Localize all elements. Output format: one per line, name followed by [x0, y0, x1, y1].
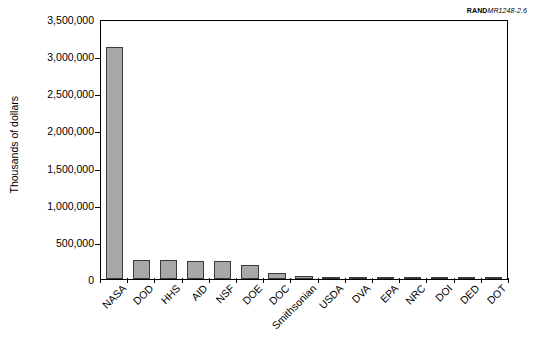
bar-cell [426, 21, 453, 279]
bar[interactable] [106, 47, 123, 279]
x-axis-tick-label: DVA [364, 282, 372, 290]
x-axis-tick-label: AID [201, 282, 209, 290]
bar-cell [290, 21, 317, 279]
bar-cell [155, 21, 182, 279]
x-axis-tick-label: DED [473, 282, 481, 290]
y-axis-tick-label: 3,500,000 [47, 14, 94, 26]
y-axis-tick-mark [95, 207, 101, 208]
bar-cell [263, 21, 290, 279]
x-axis-tick-label: DOE [256, 282, 264, 290]
y-axis-tick-label: 0 [88, 274, 94, 286]
bar-cell [399, 21, 426, 279]
y-axis-tick-label: 500,000 [56, 237, 94, 249]
bar-cell [182, 21, 209, 279]
bar[interactable] [241, 265, 258, 279]
x-axis-tick-labels: NASADODHHSAIDNSFDOEDOCSmithsonianUSDADVA… [100, 282, 508, 350]
y-axis-tick-mark [95, 132, 101, 133]
x-axis-tick-label: USDA [337, 282, 345, 290]
y-axis-tick-label: 2,000,000 [47, 125, 94, 137]
bar[interactable] [160, 260, 177, 279]
rand-report-number: MR1248-2.6 [487, 7, 527, 14]
y-axis-tick-mark [95, 170, 101, 171]
y-axis-tick-label: 2,500,000 [47, 88, 94, 100]
x-axis-tick-label: DOC [283, 282, 291, 290]
rand-brand-label: RAND [467, 7, 488, 14]
bar-cell [128, 21, 155, 279]
bar-cell [453, 21, 480, 279]
y-axis-tick-label: 3,000,000 [47, 51, 94, 63]
bar-cell [101, 21, 128, 279]
x-axis-tick-label: NSF [228, 282, 236, 290]
figure-identifier: RANDMR1248-2.6 [467, 7, 527, 14]
y-axis-tick-mark [95, 244, 101, 245]
bar-cell [345, 21, 372, 279]
bar-cell [236, 21, 263, 279]
x-axis-tick-label: DOT [500, 282, 508, 290]
plot-area [100, 20, 508, 280]
bar[interactable] [187, 261, 204, 279]
bar[interactable] [214, 261, 231, 279]
x-axis-tick-label: Smithsonian [310, 282, 318, 290]
x-axis-tick-label: NASA [120, 282, 128, 290]
bar[interactable] [133, 260, 150, 279]
y-axis-title-text: Thousands of dollars [8, 96, 20, 193]
x-axis-tick-mark [508, 278, 509, 283]
bar-cell [372, 21, 399, 279]
x-axis-tick-label: HHS [174, 282, 182, 290]
bar-cell [480, 21, 507, 279]
y-axis-tick-labels: 0500,0001,000,0001,500,0002,000,0002,500… [22, 20, 94, 280]
bar-cell [209, 21, 236, 279]
x-axis-tick-label: EPA [392, 282, 400, 290]
bar-cell [318, 21, 345, 279]
y-axis-tick-mark [95, 95, 101, 96]
y-axis-title: Thousands of dollars [6, 0, 22, 290]
bar-series [101, 21, 507, 279]
x-axis-tick-label: NRC [419, 282, 427, 290]
y-axis-tick-label: 1,500,000 [47, 163, 94, 175]
x-axis-tick-label: DOD [147, 282, 155, 290]
y-axis-tick-label: 1,000,000 [47, 200, 94, 212]
x-axis-tick-label: DOI [446, 282, 454, 290]
y-axis-tick-mark [95, 58, 101, 59]
